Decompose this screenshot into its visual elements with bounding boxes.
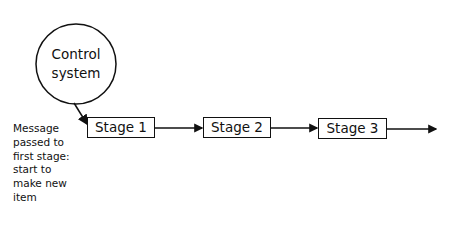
control-label-line2: system [36,64,116,83]
stage-2-box: Stage 2 [203,117,271,138]
message-note: Message passed to first stage: start to … [13,122,73,205]
control-to-stage1-arrow [74,103,87,124]
stage-1-box: Stage 1 [87,117,155,138]
stage-3-box: Stage 3 [318,118,387,139]
note-line: passed to [13,136,73,150]
note-line: Message [13,122,73,136]
control-system-label: Control system [36,45,116,83]
note-line: item [13,191,73,205]
note-line: first stage: [13,150,73,164]
note-line: start to [13,163,73,177]
control-label-line1: Control [36,45,116,64]
note-line: make new [13,177,73,191]
